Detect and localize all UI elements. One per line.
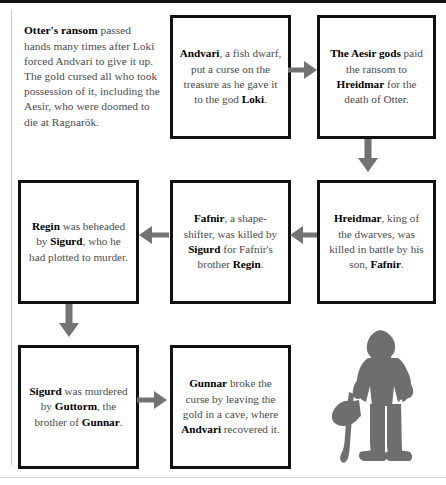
intro-body: passed hands many times after Loki force… bbox=[24, 24, 160, 127]
arrow-down-icon-regin-to-sigurd bbox=[56, 304, 82, 338]
bottom-rule bbox=[0, 477, 446, 478]
flow-box-fafnir-text: Fafnir, a shape-shifter, was killed by S… bbox=[179, 211, 282, 273]
arrow-right-icon-sigurd-to-gunnar bbox=[137, 387, 169, 413]
flow-box-sigurd-text: Sigurd was murdered by Guttorm, the brot… bbox=[27, 384, 130, 430]
arrow-right-icon-andvari-to-aesir bbox=[288, 57, 318, 83]
arrow-left-icon-hreidmar-to-fafnir bbox=[289, 222, 319, 248]
top-rule bbox=[0, 0, 446, 3]
intro-lead-in: Otter's ransom bbox=[24, 24, 98, 36]
dwarf-with-axe-icon bbox=[330, 326, 430, 471]
flow-box-fafnir: Fafnir, a shape-shifter, was killed by S… bbox=[170, 180, 291, 304]
flow-box-gunnar-text: Gunnar broke the curse by leaving the go… bbox=[179, 376, 282, 438]
flow-box-andvari-text: Andvari, a fish dwarf, put a curse on th… bbox=[179, 46, 282, 108]
intro-paragraph: Otter's ransom passed hands many times a… bbox=[24, 23, 160, 129]
flow-box-regin: Regin was beheaded by Sigurd, who he had… bbox=[18, 180, 139, 304]
flow-box-andvari: Andvari, a fish dwarf, put a curse on th… bbox=[170, 15, 291, 139]
arrow-down-icon-aesir-to-hreidmar bbox=[355, 139, 381, 173]
flow-box-gunnar: Gunnar broke the curse by leaving the go… bbox=[170, 345, 291, 469]
flow-box-regin-text: Regin was beheaded by Sigurd, who he had… bbox=[27, 219, 130, 265]
flow-box-aesir-gods: The Aesir gods paid the ransom to Hreidm… bbox=[317, 15, 436, 139]
flow-box-hreidmar: Hreidmar, king of the dwarves, was kille… bbox=[317, 180, 436, 304]
flow-box-aesir-gods-text: The Aesir gods paid the ransom to Hreidm… bbox=[326, 46, 427, 108]
flow-box-sigurd: Sigurd was murdered by Guttorm, the brot… bbox=[18, 345, 139, 469]
left-column-divider bbox=[11, 10, 12, 465]
arrow-left-icon-fafnir-to-regin bbox=[137, 222, 169, 248]
flow-box-hreidmar-text: Hreidmar, king of the dwarves, was kille… bbox=[326, 211, 427, 273]
